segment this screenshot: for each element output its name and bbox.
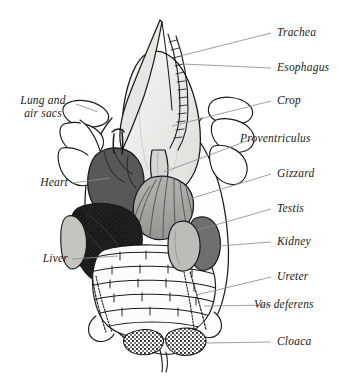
label-crop: Crop [277,94,301,107]
label-esophagus: Esophagus [277,61,329,74]
label-lung-and-air-sacs-line1: Lung and [12,94,74,107]
label-gizzard: Gizzard [277,167,314,180]
label-lung-and-air-sacs: Lung and air sacs [12,94,74,119]
label-lung-and-air-sacs-line2: air sacs [12,107,74,120]
anatomy-illustration [0,0,338,378]
label-vas-deferens: Vas deferens [254,298,314,311]
label-proventriculus: Proventriculus [240,132,311,145]
label-liver: Liver [8,252,68,265]
label-testis: Testis [277,202,304,215]
testis-organ [168,221,200,271]
bird-anatomy-diagram: Trachea Esophagus Crop Proventriculus Gi… [0,0,338,378]
label-ureter: Ureter [277,270,308,283]
label-cloaca: Cloaca [277,335,311,348]
label-trachea: Trachea [277,26,316,39]
label-heart: Heart [8,176,68,189]
label-kidney: Kidney [277,235,311,248]
